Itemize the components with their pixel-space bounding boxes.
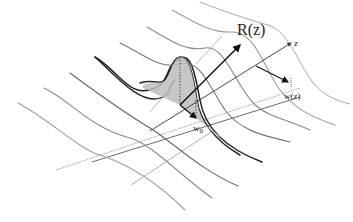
diagram-canvas: R(z) z w(z) w0 [0, 0, 353, 222]
spot-size-label: w(z) [284, 91, 301, 101]
gaussian-beam-diagram: R(z) z w(z) w0 [0, 0, 353, 222]
spot-size-arrow [256, 66, 291, 87]
z-axis-label: z [294, 38, 298, 48]
waist-label: w0 [193, 123, 204, 135]
radius-of-curvature-label: R(z) [237, 21, 265, 39]
